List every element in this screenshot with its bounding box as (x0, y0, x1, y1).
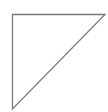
diagram-canvas (0, 0, 108, 112)
triangle-shape (13, 15, 106, 110)
